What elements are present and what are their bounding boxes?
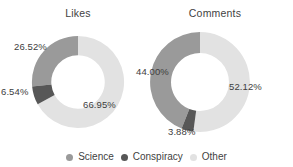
legend-label-science: Science — [78, 152, 114, 162]
chart-legend: Science Conspiracy Other — [0, 152, 293, 162]
legend-label-other: Other — [202, 152, 227, 162]
chart-title-comments: Comments — [137, 7, 293, 19]
legend-item-other[interactable]: Other — [190, 152, 227, 162]
chart-title-likes: Likes — [0, 7, 156, 19]
slice-label-likes-other: 66.95% — [83, 99, 116, 110]
slice-label-comments-conspiracy: 3.88% — [168, 126, 195, 137]
figure-canvas: Likes Comments 26.52% 6.54% 66.95% 44.00… — [0, 0, 293, 167]
legend-swatch-other-icon — [190, 154, 197, 161]
legend-label-conspiracy: Conspiracy — [133, 152, 183, 162]
legend-swatch-conspiracy-icon — [121, 154, 128, 161]
slice-label-comments-other: 52.12% — [229, 81, 262, 92]
legend-swatch-science-icon — [66, 154, 73, 161]
slice-label-likes-science: 26.52% — [14, 41, 47, 52]
slice-label-comments-science: 44.00% — [136, 66, 169, 77]
legend-item-conspiracy[interactable]: Conspiracy — [121, 152, 183, 162]
slice-label-likes-conspiracy: 6.54% — [1, 86, 28, 97]
legend-item-science[interactable]: Science — [66, 152, 114, 162]
